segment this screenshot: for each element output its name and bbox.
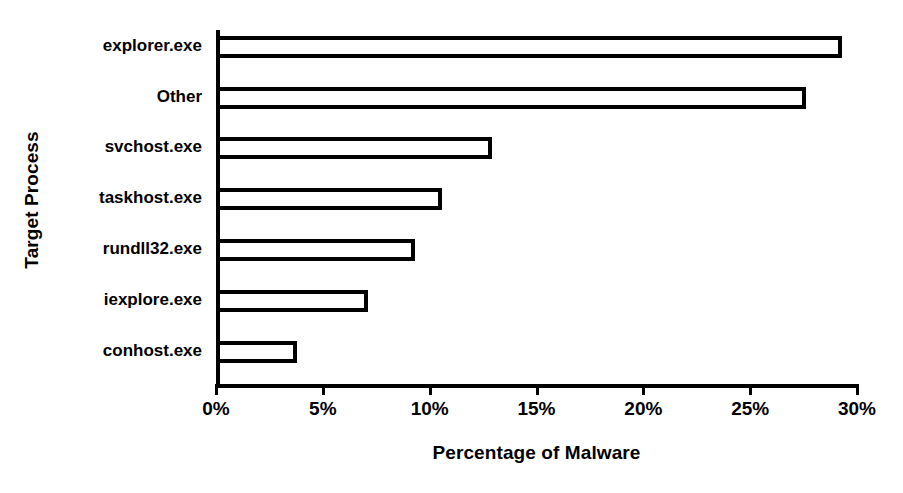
category-label: iexplore.exe bbox=[16, 290, 216, 310]
bar bbox=[216, 341, 297, 363]
x-axis-tick-label: 0% bbox=[176, 398, 256, 420]
x-axis-tick-label: 5% bbox=[283, 398, 363, 420]
x-axis-tick-label: 30% bbox=[817, 398, 897, 420]
bar bbox=[216, 290, 368, 312]
category-label: explorer.exe bbox=[16, 36, 216, 56]
bar bbox=[216, 137, 492, 159]
x-axis-tick-label: 20% bbox=[603, 398, 683, 420]
category-label: svchost.exe bbox=[16, 137, 216, 157]
x-axis-tick bbox=[215, 384, 218, 395]
bar bbox=[216, 239, 415, 261]
x-axis-tick bbox=[536, 384, 539, 395]
x-axis-tick-label: 15% bbox=[497, 398, 577, 420]
bar bbox=[216, 36, 842, 58]
bar bbox=[216, 87, 806, 109]
x-axis-tick bbox=[642, 384, 645, 395]
category-label: conhost.exe bbox=[16, 341, 216, 361]
x-axis-title: Percentage of Malware bbox=[216, 442, 857, 464]
x-axis-tick-label: 10% bbox=[390, 398, 470, 420]
bar-chart: Target Process explorer.exeOthersvchost.… bbox=[0, 0, 903, 493]
x-axis-tick bbox=[322, 384, 325, 395]
x-axis-tick-label: 25% bbox=[710, 398, 790, 420]
bar bbox=[216, 188, 442, 210]
x-axis-tick bbox=[749, 384, 752, 395]
x-axis-tick bbox=[856, 384, 859, 395]
category-label: Other bbox=[16, 87, 216, 107]
category-label: taskhost.exe bbox=[16, 188, 216, 208]
category-label: rundll32.exe bbox=[16, 239, 216, 259]
x-axis-tick bbox=[429, 384, 432, 395]
